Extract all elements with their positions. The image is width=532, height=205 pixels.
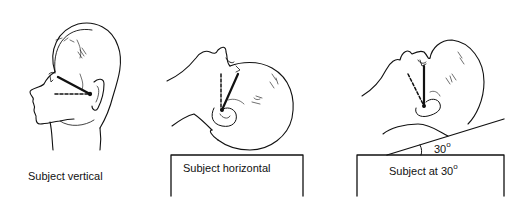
head-vertical-drawing	[30, 23, 121, 150]
label-text: Subject at 30	[389, 165, 453, 177]
degree-symbol: o	[453, 162, 457, 171]
label-text: Subject horizontal	[183, 162, 270, 174]
angle-annotation: 30o	[434, 141, 451, 155]
label-subject-horizontal: Subject horizontal	[183, 162, 270, 174]
label-subject-vertical: Subject vertical	[28, 170, 103, 182]
label-text: Subject vertical	[28, 170, 103, 182]
label-subject-at-30: Subject at 30o	[389, 163, 458, 177]
angle-value: 30	[434, 143, 446, 155]
degree-symbol: o	[446, 140, 450, 149]
